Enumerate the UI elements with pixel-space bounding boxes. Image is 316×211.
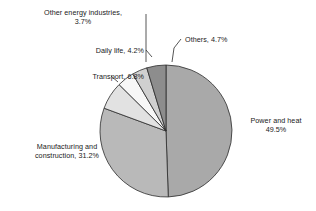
slice-label-line1: Daily life, 4.2% — [40, 46, 144, 55]
slice-label-line1: Others, 4.7% — [185, 35, 281, 44]
slice-label-others: Others, 4.7% — [185, 35, 281, 44]
slice-label-transport: Transport, 6.8% — [22, 72, 144, 81]
pie-chart-figure: Other energy industries, 3.7% Daily life… — [0, 0, 316, 211]
slice-label-line2: 3.7% — [22, 17, 144, 26]
slice-label-line1: Manufacturing and — [6, 142, 128, 151]
pie-slice-group — [100, 65, 232, 197]
pie-chart-canvas — [0, 0, 316, 211]
slice-label-line1: Transport, 6.8% — [22, 72, 144, 81]
slice-label-line2: construction, 31.2% — [6, 151, 128, 160]
slice-label-line2: 49.5% — [238, 125, 314, 134]
slice-label-line1: Power and heat — [238, 116, 314, 125]
slice-label-line1: Other energy industries, — [22, 8, 144, 17]
slice-label-other-energy-industries: Other energy industries, 3.7% — [22, 8, 144, 26]
slice-label-daily-life: Daily life, 4.2% — [40, 46, 144, 55]
pie-slice-power-and-heat[interactable] — [166, 65, 232, 197]
leader-line-daily-life — [146, 50, 152, 57]
slice-label-manufacturing-and-construction: Manufacturing and construction, 31.2% — [6, 142, 128, 160]
slice-label-power-and-heat: Power and heat 49.5% — [238, 116, 314, 134]
leader-line-others — [172, 39, 181, 62]
